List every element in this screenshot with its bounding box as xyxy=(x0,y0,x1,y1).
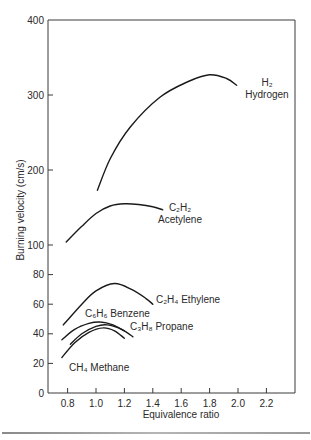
label-benzene: C₆H₆ Benzene xyxy=(85,308,150,319)
label-ethylene: C₂H₄ Ethylene xyxy=(156,294,221,305)
y-tick-label: 300 xyxy=(27,90,44,101)
y-tick-label: 20 xyxy=(33,358,45,369)
label-acetylene-formula: C₂H₂ xyxy=(169,202,191,213)
x-tick-label: 1.6 xyxy=(174,398,188,409)
label-acetylene-name: Acetylene xyxy=(158,214,202,225)
y-tick-label: 400 xyxy=(27,15,44,26)
x-axis-title: Equivalence ratio xyxy=(143,409,220,420)
y-tick-label: 60 xyxy=(33,299,45,310)
x-tick-label: 1.0 xyxy=(89,398,103,409)
y-tick-label: 40 xyxy=(33,328,45,339)
x-tick-label: 1.2 xyxy=(117,398,131,409)
label-methane: CH₄ Methane xyxy=(69,362,130,373)
label-propane: C₃H₈ Propane xyxy=(130,321,194,332)
y-axis-title: Burning velocity (cm/s) xyxy=(15,159,26,260)
y-tick-label: 80 xyxy=(33,269,45,280)
curve-hydrogen xyxy=(97,75,236,191)
x-tick-label: 1.4 xyxy=(146,398,160,409)
x-tick-label: 2.2 xyxy=(259,398,273,409)
y-tick-label: 0 xyxy=(38,388,44,399)
curve-acetylene xyxy=(66,204,163,242)
chart-svg: 020406080100200300400 0.81.01.21.41.61.8… xyxy=(0,0,311,440)
x-axis-ticks: 0.81.01.21.41.61.82.02.2 xyxy=(61,388,274,409)
x-tick-label: 0.8 xyxy=(61,398,75,409)
label-hydrogen-name: Hydrogen xyxy=(245,89,288,100)
x-tick-label: 1.8 xyxy=(203,398,217,409)
y-tick-label: 100 xyxy=(27,240,44,251)
burning-velocity-chart: 020406080100200300400 0.81.01.21.41.61.8… xyxy=(0,0,311,440)
x-tick-label: 2.0 xyxy=(231,398,245,409)
bottom-divider xyxy=(2,432,310,434)
y-tick-label: 200 xyxy=(27,165,44,176)
y-axis-ticks: 020406080100200300400 xyxy=(27,15,53,399)
label-hydrogen-formula: H₂ xyxy=(261,77,272,88)
